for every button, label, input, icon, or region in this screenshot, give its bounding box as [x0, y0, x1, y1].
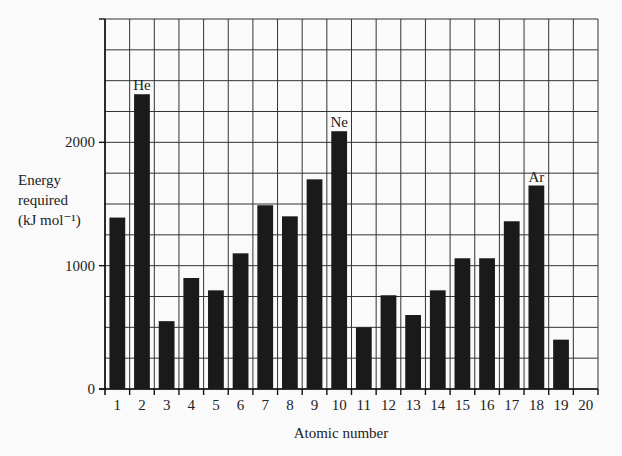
x-tick-label: 12: [381, 397, 396, 413]
bar-annotation: Ar: [528, 169, 544, 185]
x-tick-label: 5: [212, 397, 220, 413]
x-tick-label: 4: [188, 397, 196, 413]
bar: [257, 205, 273, 389]
bar: [331, 131, 347, 389]
bar: [282, 216, 298, 389]
bar: [134, 94, 150, 389]
x-tick-label: 19: [554, 397, 569, 413]
bar: [528, 186, 544, 390]
bar-annotation: He: [133, 77, 151, 93]
bar: [479, 258, 495, 389]
x-tick-label: 11: [357, 397, 371, 413]
x-tick-label: 18: [529, 397, 544, 413]
x-tick-label: 14: [430, 397, 446, 413]
bar: [356, 327, 372, 389]
y-tick-label: 2000: [65, 134, 95, 150]
bar: [504, 221, 520, 389]
x-tick-label: 9: [311, 397, 319, 413]
x-tick-label: 17: [504, 397, 520, 413]
x-tick-label: 15: [455, 397, 470, 413]
bar: [430, 290, 446, 389]
y-tick-label: 0: [88, 381, 96, 397]
x-tick-label: 20: [578, 397, 593, 413]
bar: [159, 321, 175, 389]
x-tick-label: 1: [114, 397, 122, 413]
bar: [553, 340, 569, 389]
bar: [208, 290, 224, 389]
y-axis-label-line: (kJ mol⁻¹): [18, 210, 81, 230]
bar: [233, 253, 249, 389]
y-axis-label-line: required: [18, 190, 81, 210]
x-tick-label: 3: [163, 397, 171, 413]
x-tick-label: 2: [138, 397, 146, 413]
x-tick-label: 13: [406, 397, 421, 413]
y-axis-label-line: Energy: [18, 170, 81, 190]
x-tick-label: 8: [286, 397, 294, 413]
bar: [405, 315, 421, 389]
bar: [183, 278, 199, 389]
y-axis-label: Energy required (kJ mol⁻¹): [18, 170, 81, 230]
bar: [307, 179, 323, 389]
bar-chart: 0100020001234567891011121314151617181920…: [0, 0, 622, 456]
bar: [109, 218, 125, 389]
x-axis-label: Atomic number: [0, 425, 622, 442]
x-tick-label: 6: [237, 397, 245, 413]
bar-annotation: Ne: [330, 114, 348, 130]
bar: [455, 258, 471, 389]
x-tick-label: 16: [480, 397, 496, 413]
bar: [381, 295, 397, 389]
x-tick-label: 10: [332, 397, 347, 413]
y-tick-label: 1000: [65, 258, 95, 274]
x-tick-label: 7: [261, 397, 269, 413]
